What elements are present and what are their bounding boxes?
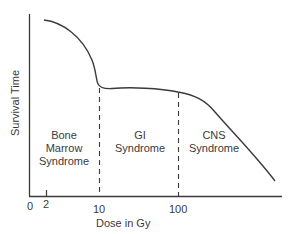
- region-label-line: Bone: [36, 129, 92, 142]
- x-tick-label-2: 2: [43, 198, 49, 210]
- x-tick-label-10: 10: [93, 203, 105, 215]
- x-tick-label-100: 100: [169, 203, 187, 215]
- region-gi: GI Syndrome: [112, 129, 168, 155]
- region-label-line: Syndrome: [36, 155, 92, 168]
- y-axis-label: Survival Time: [9, 68, 21, 138]
- region-cns: CNS Syndrome: [186, 129, 242, 155]
- region-bone-marrow: Bone Marrow Syndrome: [36, 129, 92, 168]
- region-label-line: Marrow: [36, 142, 92, 155]
- x-axis-label: Dose in Gy: [96, 217, 150, 230]
- region-label-line: GI: [112, 129, 168, 142]
- region-label-line: Syndrome: [112, 142, 168, 155]
- region-label-line: CNS: [186, 129, 242, 142]
- region-label-line: Syndrome: [186, 142, 242, 155]
- x-tick-label-0: 0: [27, 200, 33, 212]
